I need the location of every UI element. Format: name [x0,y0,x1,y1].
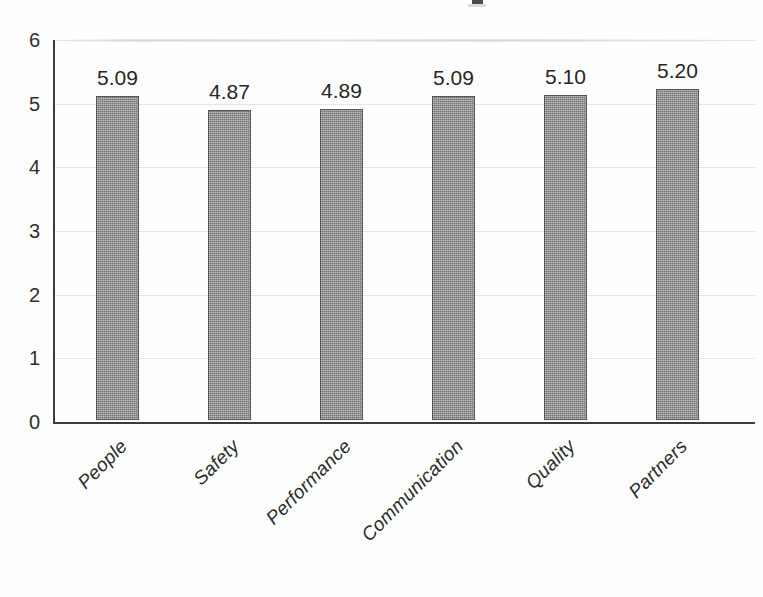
gridline-3 [55,231,755,232]
plot-area: 6 5 4 3 2 1 0 5.09 4.87 4.89 5.09 5.10 5… [53,40,755,422]
y-tick-label-0: 0 [29,412,40,432]
gridline-5 [55,104,755,105]
bar-quality[interactable]: 5.10 [544,95,587,420]
x-axis-label-partners: Partners [625,436,690,501]
bar-communication[interactable]: 5.09 [432,96,475,420]
y-tick-label-3: 3 [29,221,40,241]
bar-value-label-safety: 4.87 [209,81,250,102]
gridline-2 [55,295,755,296]
y-tick-label-4: 4 [29,157,40,177]
bar-value-label-quality: 5.10 [545,66,586,87]
bar-value-label-communication: 5.09 [433,67,474,88]
gridline-1 [55,358,755,359]
bar-value-label-performance: 4.89 [321,80,362,101]
x-axis-label-performance: Performance [263,436,355,528]
cropped-title-shadow [468,4,486,7]
bar-performance[interactable]: 4.89 [320,109,363,420]
y-tick-label-1: 1 [29,348,40,368]
bar-safety[interactable]: 4.87 [208,110,251,420]
x-axis-label-safety: Safety [190,436,242,488]
bar-value-label-people: 5.09 [97,67,138,88]
x-axis-label-communication: Communication [358,436,467,545]
bar-value-label-partners: 5.20 [657,60,698,81]
y-tick-label-2: 2 [29,285,40,305]
y-tick-label-5: 5 [29,94,40,114]
y-tick-label-6: 6 [29,30,40,50]
gridline-6 [55,40,755,41]
x-axis-label-quality: Quality [522,436,578,492]
bar-people[interactable]: 5.09 [96,96,139,420]
gridline-4 [55,167,755,168]
x-axis-labels: People Safety Performance Communication … [53,424,755,584]
x-axis-label-people: People [74,436,130,492]
bar-partners[interactable]: 5.20 [656,89,699,420]
bar-chart: 6 5 4 3 2 1 0 5.09 4.87 4.89 5.09 5.10 5… [0,0,763,597]
